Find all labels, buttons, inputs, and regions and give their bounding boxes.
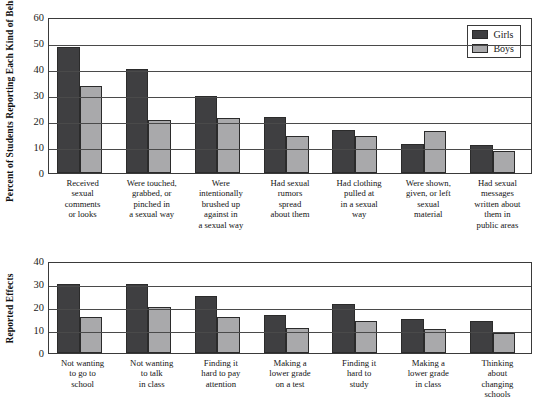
- bar-girls: [264, 315, 287, 353]
- bottom-chart-bars: [49, 263, 531, 353]
- bar-girls: [332, 304, 355, 353]
- bar-boys: [493, 333, 516, 353]
- chart-legend: GirlsBoys: [467, 25, 521, 58]
- y-tick-label: 30: [34, 91, 45, 102]
- bar-boys: [424, 131, 447, 173]
- x-axis-label: Not wantingto talkin class: [117, 357, 186, 400]
- bar-group: [462, 263, 531, 353]
- y-tick-label: 20: [34, 117, 45, 128]
- gridline: [49, 286, 531, 287]
- x-axis-label: Had sexualmessageswritten aboutthem inpu…: [463, 177, 532, 230]
- x-axis-label: Finding ithard tostudy: [325, 357, 394, 400]
- bar-girls: [126, 69, 149, 173]
- bar-boys: [217, 118, 240, 173]
- bar-boys: [493, 151, 516, 173]
- top-chart-y-axis-title-text: Percent of Students Reporting Each Kind …: [6, 0, 17, 202]
- gridline: [49, 45, 531, 46]
- bar-boys: [148, 120, 171, 173]
- bar-boys: [217, 317, 240, 353]
- bar-group: [324, 263, 393, 353]
- y-tick-label: 10: [34, 143, 45, 154]
- x-axis-label: Making alower gradein class: [394, 357, 463, 400]
- bar-group: [256, 263, 325, 353]
- bar-girls: [57, 284, 80, 353]
- top-chart-x-axis-labels: Receivedsexualcommentsor looksWere touch…: [48, 177, 532, 230]
- gridline: [49, 97, 531, 98]
- y-tick-label: 40: [34, 257, 45, 268]
- bar-boys: [355, 136, 378, 173]
- bar-boys: [80, 86, 103, 173]
- gridline: [49, 71, 531, 72]
- x-axis-label: Were touched,grabbed, orpinched ina sexu…: [117, 177, 186, 230]
- legend-swatch-girls: [472, 30, 488, 39]
- legend-label-girls: Girls: [493, 29, 513, 40]
- y-tick-label: 0: [39, 169, 44, 180]
- bottom-chart-x-axis-labels: Not wantingto go toschoolNot wantingto t…: [48, 357, 532, 400]
- x-axis-label: Had sexualrumorsspreadabout them: [255, 177, 324, 230]
- legend-item-girls: Girls: [472, 29, 514, 40]
- bottom-chart-y-axis-title-text: Reported Effects: [6, 273, 17, 343]
- x-axis-label: Had clothingpulled atin a sexualway: [325, 177, 394, 230]
- bar-girls: [264, 117, 287, 173]
- bar-girls: [401, 319, 424, 354]
- x-axis-label: Making alower gradeon a test: [255, 357, 324, 400]
- y-tick-label: 40: [34, 65, 45, 76]
- bar-boys: [80, 317, 103, 353]
- bar-girls: [195, 296, 218, 354]
- x-axis-label: Receivedsexualcommentsor looks: [48, 177, 117, 230]
- gridline: [49, 123, 531, 124]
- bottom-chart-plot-area: [48, 262, 532, 354]
- bar-boys: [286, 136, 309, 173]
- y-tick-label: 10: [34, 326, 45, 337]
- bar-girls: [126, 284, 149, 353]
- x-axis-label: Wereintentionallybrushed upagainst ina s…: [186, 177, 255, 230]
- x-axis-label: Thinkingaboutchangingschools: [463, 357, 532, 400]
- gridline: [49, 332, 531, 333]
- bar-group: [118, 263, 187, 353]
- top-chart-plot-area: GirlsBoys: [48, 18, 532, 174]
- bar-group: [187, 263, 256, 353]
- x-axis-label: Were shown,given, or leftsexualmaterial: [394, 177, 463, 230]
- bottom-chart-y-axis-title: Reported Effects: [0, 258, 22, 358]
- bottom-chart-y-tick-labels: 010203040: [22, 262, 44, 354]
- bar-girls: [57, 47, 80, 173]
- y-tick-label: 50: [34, 39, 45, 50]
- figure: Percent of Students Reporting Each Kind …: [0, 0, 539, 406]
- bar-girls: [470, 321, 493, 353]
- y-tick-label: 30: [34, 280, 45, 291]
- bar-group: [49, 263, 118, 353]
- y-tick-label: 0: [39, 349, 44, 360]
- x-axis-label: Not wantingto go toschool: [48, 357, 117, 400]
- top-chart-y-tick-labels: 0102030405060: [22, 18, 44, 174]
- gridline: [49, 149, 531, 150]
- y-tick-label: 60: [34, 13, 45, 24]
- top-chart-y-axis-title: Percent of Students Reporting Each Kind …: [0, 10, 22, 170]
- x-axis-label: Finding ithard to payattention: [186, 357, 255, 400]
- bar-group: [393, 263, 462, 353]
- bar-girls: [332, 130, 355, 173]
- gridline: [49, 309, 531, 310]
- y-tick-label: 20: [34, 303, 45, 314]
- bar-girls: [195, 96, 218, 173]
- bar-boys: [148, 307, 171, 353]
- bar-boys: [355, 321, 378, 353]
